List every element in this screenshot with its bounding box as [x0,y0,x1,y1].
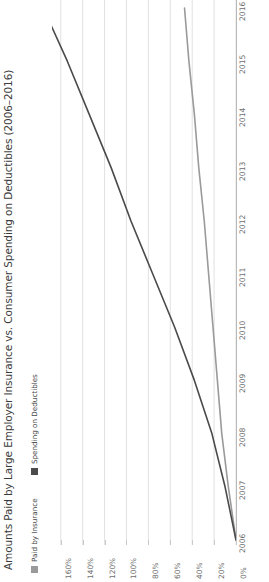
value-axis-tick [126,540,127,545]
value-axis-tick-label: 40% [195,563,204,579]
legend-item-spending-on-deductibles[interactable]: Spending on Deductibles [30,374,39,475]
legend-item-label: Spending on Deductibles [30,374,39,464]
value-axis-tick-label: 80% [151,563,160,579]
value-axis-tick-label: 20% [217,563,226,579]
category-axis-tick-label: 2015 [238,55,247,74]
category-axis-tick-label: 2006 [238,534,247,553]
category-axis-tick-label: 2013 [238,161,247,180]
value-axis-tick [148,540,149,545]
chart-canvas [52,0,238,545]
value-axis-tick [236,540,237,545]
chart-legend: Paid by Insurance Spending on Deductible… [16,0,46,582]
value-axis-tick-label: 60% [173,563,182,579]
value-axis-tick [105,540,106,545]
page-title: Amounts Paid by Large Employer Insurance… [2,70,14,570]
category-axis-tick-label: 2008 [238,427,247,446]
value-axis-tick [83,540,84,545]
category-axis-tick-label: 2012 [238,214,247,233]
value-axis-tick-label: 140% [86,558,95,579]
plot-area [52,0,238,545]
value-axis-tick-label: 120% [108,558,117,579]
value-axis-tick-label: 100% [129,558,138,579]
category-axis-tick-label: 2009 [238,374,247,393]
category-axis-tick-label: 2014 [238,108,247,127]
category-axis-tick-label: 2007 [238,480,247,499]
category-axis-line [236,0,237,545]
value-axis-tick-label: 160% [64,558,73,579]
category-axis-tick-label: 2010 [238,321,247,340]
series-lines [52,8,236,540]
chart-root: Amounts Paid by Large Employer Insurance… [0,0,269,582]
category-axis-labels: 2006200720082009201020112012201320142015… [238,0,269,582]
gridlines [61,0,236,545]
value-axis-tick [61,540,62,545]
value-axis-labels: 160%140%120%100%80%60%40%20%0% [0,545,269,582]
legend-swatch-icon [31,468,38,475]
category-axis-tick-label: 2011 [238,268,247,287]
value-axis-tick [214,540,215,545]
value-axis-tick [192,540,193,545]
value-axis-tick [170,540,171,545]
category-axis-tick-label: 2016 [238,2,247,21]
